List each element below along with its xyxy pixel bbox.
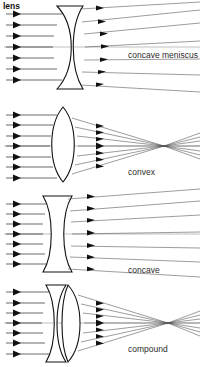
outgoing-rays [68,189,200,277]
incoming-rays [6,112,57,182]
panel-concave-meniscus: concave meniscus [4,2,200,92]
incoming-rays [6,201,48,268]
panel-label-compound: compound [128,344,168,354]
panel-label-concave: concave [128,265,160,275]
lens-diagram: lens [0,0,205,367]
panel-concave: concave [4,189,200,277]
outgoing-rays [78,295,200,351]
panel-convex: convex [4,107,200,182]
panel-label-convex: convex [128,167,156,177]
lens-shape-convex [52,107,75,182]
figure-title: lens [3,1,20,11]
lens-shape-concave-meniscus [57,6,83,89]
lens-shape-compound-element-2 [62,285,80,362]
panel-label-concave-meniscus: concave meniscus [128,50,198,60]
panel-compound: compound [4,285,200,362]
outgoing-rays [72,118,200,174]
